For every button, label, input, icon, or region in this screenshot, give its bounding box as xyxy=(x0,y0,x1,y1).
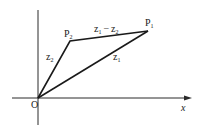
vector-diagram: O x P2 P1 z1−z2 z2 z1 xyxy=(0,0,199,128)
origin-label: O xyxy=(31,99,38,110)
point-p1-label: P1 xyxy=(145,17,154,29)
vector-z1-minus-z2-label: z1−z2 xyxy=(94,23,119,35)
vector-z2-label: z2 xyxy=(46,51,53,63)
point-p2-label: P2 xyxy=(64,28,73,40)
x-axis-label: x xyxy=(180,102,186,113)
vector-z1-label: z1 xyxy=(113,51,120,63)
vector-z1 xyxy=(38,31,148,98)
x-axis-arrowhead xyxy=(184,96,192,101)
